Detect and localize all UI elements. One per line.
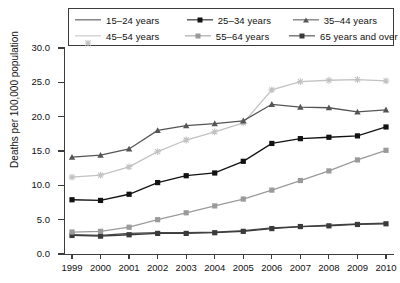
data-point xyxy=(69,197,74,202)
data-point xyxy=(98,234,103,239)
data-point xyxy=(211,128,218,135)
data-point xyxy=(184,173,189,178)
data-point xyxy=(326,168,331,173)
series-line xyxy=(72,150,386,232)
data-point xyxy=(298,136,303,141)
data-point xyxy=(126,163,133,170)
data-point xyxy=(184,231,189,236)
data-point xyxy=(155,217,160,222)
data-point xyxy=(97,172,104,179)
series-line xyxy=(72,80,386,178)
data-point xyxy=(355,157,360,162)
data-point xyxy=(126,192,131,197)
series-55-64-years xyxy=(69,148,388,235)
line-chart: 15–24 years 25–34 years 35–44 years 45–5… xyxy=(0,0,400,283)
data-point xyxy=(268,86,275,93)
data-point xyxy=(241,229,246,234)
data-point xyxy=(355,133,360,138)
data-point xyxy=(126,225,131,230)
data-point xyxy=(212,170,217,175)
data-point xyxy=(354,76,361,83)
series-plot xyxy=(0,0,400,283)
data-point xyxy=(69,174,76,181)
series-25-34-years xyxy=(69,124,388,203)
data-point xyxy=(69,229,74,234)
data-point xyxy=(126,232,131,237)
data-point xyxy=(355,222,360,227)
data-point xyxy=(212,230,217,235)
data-point xyxy=(269,226,274,231)
data-point xyxy=(298,224,303,229)
data-point xyxy=(298,178,303,183)
data-point xyxy=(326,77,333,84)
data-point xyxy=(98,198,103,203)
data-point xyxy=(155,231,160,236)
data-point xyxy=(155,180,160,185)
data-point xyxy=(154,148,161,155)
series-line xyxy=(72,127,386,200)
data-point xyxy=(269,188,274,193)
data-point xyxy=(184,210,189,215)
data-point xyxy=(241,196,246,201)
data-point xyxy=(126,146,132,152)
data-point xyxy=(383,124,388,129)
data-point xyxy=(98,229,103,234)
data-point xyxy=(383,78,390,85)
data-point xyxy=(383,221,388,226)
data-point xyxy=(326,135,331,140)
data-point xyxy=(241,159,246,164)
data-point xyxy=(212,203,217,208)
series-35-44-years xyxy=(69,101,389,160)
data-point xyxy=(183,137,190,144)
data-point xyxy=(383,148,388,153)
series-line xyxy=(72,104,386,157)
data-point xyxy=(297,78,304,85)
data-point xyxy=(269,141,274,146)
series-65-years-and-over xyxy=(69,221,388,239)
series-45-54-years xyxy=(69,76,390,180)
data-point xyxy=(326,223,331,228)
